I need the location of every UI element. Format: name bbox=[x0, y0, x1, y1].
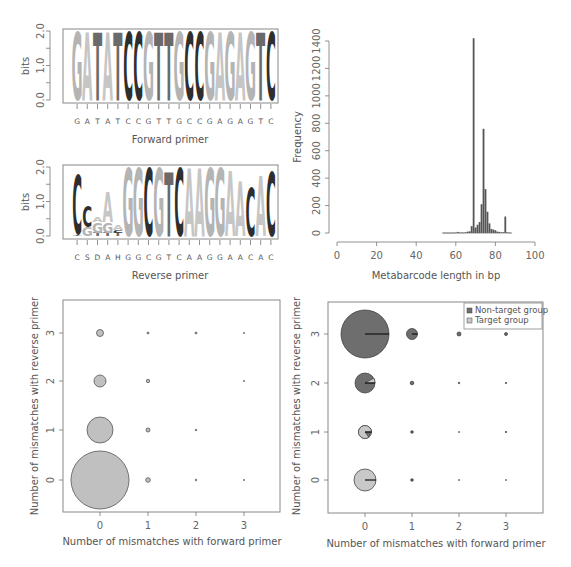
x-tick-label: T bbox=[166, 253, 172, 262]
bubble-point bbox=[146, 478, 151, 483]
reverse-logo-y-axis: 0.01.02.0 bbox=[35, 159, 50, 244]
bubble-point bbox=[195, 479, 197, 481]
pie-point bbox=[411, 431, 414, 434]
x-tick-label: G bbox=[217, 253, 223, 262]
x-tick-label: G bbox=[125, 253, 131, 262]
x-tick-label: 0 bbox=[334, 250, 340, 261]
x-tick-label: C bbox=[248, 253, 253, 262]
x-tick-label: C bbox=[74, 253, 79, 262]
pie-point bbox=[505, 431, 506, 432]
logo-letter: A bbox=[102, 185, 113, 232]
histogram-bar bbox=[473, 38, 475, 233]
histogram-bar bbox=[479, 222, 481, 233]
x-tick-label: 100 bbox=[525, 250, 544, 261]
x-tick-label: G bbox=[248, 117, 254, 126]
y-tick-label: 1400 bbox=[311, 28, 322, 53]
legend-swatch-target bbox=[467, 318, 472, 323]
histogram-bar bbox=[481, 204, 483, 233]
y-tick-label: 0 bbox=[311, 230, 322, 236]
y-tick-label: 1200 bbox=[311, 56, 322, 81]
bubble-point bbox=[243, 479, 244, 480]
x-tick-label: 1 bbox=[409, 521, 415, 532]
y-tick-label: 0 bbox=[45, 477, 56, 483]
x-tick-label: G bbox=[135, 253, 141, 262]
x-tick-label: T bbox=[166, 117, 172, 126]
legend-swatch-nontarget bbox=[467, 308, 472, 313]
x-tick-label: G bbox=[146, 117, 152, 126]
bubble-point bbox=[71, 451, 129, 509]
y-tick-label: 0 bbox=[310, 477, 321, 483]
histogram-axes: 0204060801000200400600800100012001400 bbox=[311, 28, 545, 261]
histogram-xlabel: Metabarcode length in bp bbox=[372, 270, 501, 281]
figure-canvas: GATATCCGTTGCCGAGAGTC 0.01.02.0 GATATCCGT… bbox=[0, 0, 571, 567]
y-tick-label: 2.0 bbox=[35, 23, 46, 39]
forward-logo-ylabel: bits bbox=[20, 57, 31, 75]
x-tick-label: A bbox=[187, 253, 193, 262]
x-tick-label: C bbox=[268, 253, 273, 262]
x-tick-label: T bbox=[115, 117, 121, 126]
pie-point bbox=[459, 432, 460, 433]
bubble-point bbox=[97, 330, 104, 337]
legend-label-target: Target group bbox=[474, 315, 529, 325]
x-tick-label: C bbox=[146, 253, 151, 262]
x-tick-label: 40 bbox=[410, 250, 423, 261]
x-tick-label: A bbox=[197, 253, 203, 262]
x-tick-label: D bbox=[95, 253, 101, 262]
x-tick-label: A bbox=[85, 117, 91, 126]
pie-point bbox=[505, 382, 506, 383]
bubble-point bbox=[147, 332, 149, 334]
pie-point bbox=[457, 332, 461, 336]
y-tick-label: 2 bbox=[310, 380, 321, 386]
x-tick-label: 0 bbox=[362, 521, 368, 532]
x-tick-label: G bbox=[156, 253, 162, 262]
x-tick-label: A bbox=[228, 253, 234, 262]
y-tick-label: 3 bbox=[310, 331, 321, 337]
pie-point bbox=[506, 480, 507, 481]
x-tick-label: A bbox=[238, 253, 244, 262]
bubble-point bbox=[243, 332, 244, 333]
legend: Non-target group Target group bbox=[464, 303, 548, 329]
x-tick-label: C bbox=[125, 117, 130, 126]
x-tick-label: A bbox=[238, 117, 244, 126]
x-tick-label: T bbox=[257, 117, 263, 126]
y-tick-label: 1000 bbox=[311, 83, 322, 108]
histogram-bar bbox=[487, 212, 489, 233]
pie-point bbox=[458, 382, 460, 384]
x-tick-label: C bbox=[197, 117, 202, 126]
pie-point bbox=[411, 479, 414, 482]
bubble-point bbox=[195, 332, 197, 334]
bubble-point bbox=[243, 380, 244, 381]
logo-letter: C bbox=[82, 201, 92, 234]
bubble-point bbox=[146, 428, 150, 432]
reverse-logo-ylabel: bits bbox=[20, 193, 31, 211]
x-tick-label: 80 bbox=[489, 250, 502, 261]
histogram-bars bbox=[442, 38, 512, 233]
x-tick-label: 2 bbox=[456, 521, 462, 532]
histogram-bar bbox=[495, 230, 497, 233]
histogram-bar bbox=[504, 217, 506, 233]
legend-label-nontarget: Non-target group bbox=[475, 305, 548, 315]
x-tick-label: G bbox=[176, 117, 182, 126]
x-tick-label: T bbox=[94, 117, 100, 126]
forward-logo-letters: GATATCCGTTGCCGAGAGTC bbox=[72, 15, 276, 123]
bubble-xlabel: Number of mismatches with forward primer bbox=[62, 536, 282, 547]
x-tick-label: G bbox=[227, 117, 233, 126]
x-tick-label: A bbox=[105, 117, 111, 126]
reverse-logo-letters: TCGCTGATGATCAGGCGTCAAGGAACAC bbox=[72, 151, 276, 259]
histogram-bar bbox=[491, 229, 493, 233]
histogram-bar bbox=[475, 228, 477, 233]
y-tick-label: 800 bbox=[311, 114, 322, 133]
pie-point bbox=[459, 480, 460, 481]
x-tick-label: C bbox=[268, 117, 273, 126]
y-tick-label: 2.0 bbox=[35, 159, 46, 175]
y-tick-label: 2 bbox=[45, 378, 56, 384]
y-tick-label: 0.0 bbox=[35, 228, 46, 244]
bubble-point bbox=[94, 375, 106, 387]
x-tick-label: 3 bbox=[241, 520, 247, 531]
y-tick-label: 600 bbox=[311, 141, 322, 160]
x-tick-label: 2 bbox=[193, 520, 199, 531]
y-tick-label: 1.0 bbox=[35, 58, 46, 74]
bubble-point bbox=[195, 429, 197, 431]
bubble-plot-all: 01230123 Number of mismatches with rever… bbox=[29, 296, 282, 547]
histogram-ylabel: Frequency bbox=[292, 111, 303, 163]
